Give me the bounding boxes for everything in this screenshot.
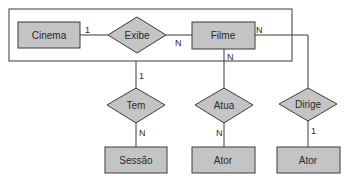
cardinality-dirige-ator: 1 [311, 126, 316, 136]
entity-ator-dirige[interactable]: Ator [277, 147, 340, 173]
relationship-exibe[interactable]: Exibe [108, 17, 166, 53]
entity-ator-atua-label: Ator [214, 155, 233, 166]
relationship-atua-label: Atua [214, 100, 235, 111]
relationship-dirige-label: Dirige [295, 99, 322, 110]
entity-ator-atua[interactable]: Ator [192, 147, 255, 173]
entity-cinema-label: Cinema [32, 30, 67, 41]
entity-sessao[interactable]: Sessão [105, 147, 167, 173]
entity-sessao-label: Sessão [119, 155, 153, 166]
er-diagram: Cinema Filme Sessão Ator Ator Exibe Tem … [0, 0, 346, 179]
cardinality-exibe-filme: N [175, 38, 182, 48]
cardinality-atua-ator: N [216, 128, 223, 138]
relationship-exibe-label: Exibe [124, 30, 149, 41]
cardinality-cinema-exibe: 1 [85, 25, 90, 35]
relationship-atua[interactable]: Atua [195, 88, 253, 123]
cardinality-filme-dirige: N [256, 25, 263, 35]
entity-filme[interactable]: Filme [192, 22, 255, 49]
cardinality-tem-sessao: N [139, 128, 146, 138]
relationship-dirige[interactable]: Dirige [279, 88, 337, 121]
entity-ator-dirige-label: Ator [299, 155, 318, 166]
relationship-tem-label: Tem [127, 100, 146, 111]
cardinality-filme-atua: N [227, 52, 234, 62]
entity-filme-label: Filme [211, 30, 236, 41]
entity-cinema[interactable]: Cinema [18, 22, 80, 48]
cardinality-cinema-tem: 1 [139, 71, 144, 81]
relationship-tem[interactable]: Tem [107, 88, 165, 123]
